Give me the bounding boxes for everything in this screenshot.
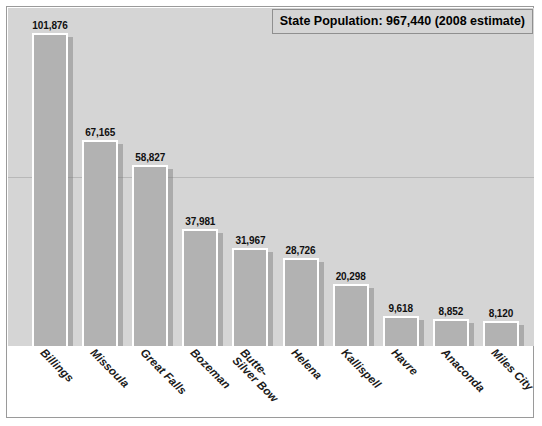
bar-value-label: 101,876 bbox=[32, 20, 67, 31]
x-axis-label-line1: Helena bbox=[289, 346, 324, 381]
bar[interactable] bbox=[132, 165, 168, 346]
x-axis-label-line1: Miles City bbox=[489, 346, 535, 392]
bar-group: 101,876 bbox=[32, 33, 68, 346]
bar-group: 31,967 bbox=[232, 248, 268, 346]
bar[interactable] bbox=[232, 248, 268, 346]
bar-group: 8,120 bbox=[483, 321, 519, 346]
bar-value-label: 8,120 bbox=[489, 308, 514, 319]
bar-value-label: 20,298 bbox=[336, 271, 366, 282]
x-axis-label: Kallispell bbox=[339, 347, 382, 390]
bar-group: 9,618 bbox=[383, 316, 419, 346]
plot-area: 101,87667,16558,82737,98131,96728,72620,… bbox=[8, 8, 534, 346]
bar-value-label: 37,981 bbox=[185, 216, 215, 227]
x-axis-label-line1: Anaconda bbox=[439, 346, 487, 394]
bar[interactable] bbox=[433, 319, 469, 346]
x-axis-label: Miles City bbox=[489, 347, 535, 393]
bar[interactable] bbox=[283, 258, 319, 346]
x-axis-labels: BillingsMissoulaGreat FallsBozemanButte-… bbox=[8, 347, 534, 419]
bar[interactable] bbox=[333, 284, 369, 346]
x-axis-label: Havre bbox=[389, 347, 419, 377]
bar-group: 28,726 bbox=[283, 258, 319, 346]
bar[interactable] bbox=[483, 321, 519, 346]
bar[interactable] bbox=[182, 229, 218, 346]
x-axis-label: Missoula bbox=[88, 347, 131, 390]
bar-value-label: 8,852 bbox=[439, 306, 464, 317]
bar[interactable] bbox=[82, 140, 118, 346]
x-axis-label-line1: Bozeman bbox=[189, 346, 234, 391]
bar[interactable] bbox=[32, 33, 68, 346]
x-axis-label: Anaconda bbox=[439, 347, 486, 394]
bar-group: 58,827 bbox=[132, 165, 168, 346]
x-axis-label: Great Falls bbox=[138, 347, 188, 397]
x-axis-label-line1: Great Falls bbox=[138, 346, 189, 397]
x-axis-label: Bozeman bbox=[189, 347, 233, 391]
bar-group: 20,298 bbox=[333, 284, 369, 346]
bar-value-label: 67,165 bbox=[85, 127, 115, 138]
x-axis-label-line1: Billings bbox=[38, 346, 76, 384]
bar-group: 67,165 bbox=[82, 140, 118, 346]
x-axis-label-line1: Havre bbox=[389, 346, 420, 377]
bar-value-label: 28,726 bbox=[286, 245, 316, 256]
bar-group: 37,981 bbox=[182, 229, 218, 346]
chart-figure: 101,87667,16558,82737,98131,96728,72620,… bbox=[0, 0, 542, 426]
chart-title: State Population: 967,440 (2008 estimate… bbox=[272, 9, 533, 34]
x-axis-label-line1: Kallispell bbox=[339, 346, 383, 390]
x-axis-label: Butte-Silver Bow bbox=[231, 347, 288, 404]
x-axis-label: Helena bbox=[289, 347, 323, 381]
bar-value-label: 58,827 bbox=[135, 152, 165, 163]
x-axis-label-line1: Missoula bbox=[88, 346, 131, 389]
bar-value-label: 9,618 bbox=[388, 303, 413, 314]
bar-value-label: 31,967 bbox=[235, 235, 265, 246]
bar[interactable] bbox=[383, 316, 419, 346]
bar-group: 8,852 bbox=[433, 319, 469, 346]
x-axis-label: Billings bbox=[38, 347, 75, 384]
